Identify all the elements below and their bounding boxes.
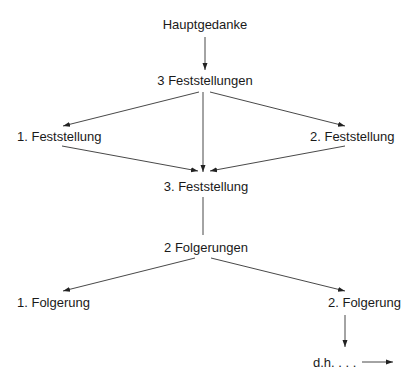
node-continuation: d.h. . . . bbox=[313, 355, 356, 370]
node-conclusion-1: 1. Folgerung bbox=[17, 295, 90, 310]
arrow-finding1-to-finding3 bbox=[62, 146, 198, 171]
node-main-idea: Hauptgedanke bbox=[163, 17, 248, 32]
arrow-conclusions-to-conclusion2 bbox=[211, 258, 345, 291]
node-finding-3: 3. Feststellung bbox=[164, 179, 249, 194]
arrow-finding2-to-finding3 bbox=[210, 146, 345, 171]
node-finding-2: 2. Feststellung bbox=[310, 129, 395, 144]
node-three-findings: 3 Feststellungen bbox=[157, 73, 252, 88]
arrow-findings-to-finding1 bbox=[63, 92, 199, 126]
arrow-findings-to-finding2 bbox=[210, 92, 345, 126]
node-finding-1: 1. Feststellung bbox=[17, 129, 102, 144]
arrow-conclusions-to-conclusion1 bbox=[63, 258, 195, 291]
node-conclusion-2: 2. Folgerung bbox=[328, 295, 401, 310]
node-two-conclusions: 2 Folgerungen bbox=[164, 240, 248, 255]
